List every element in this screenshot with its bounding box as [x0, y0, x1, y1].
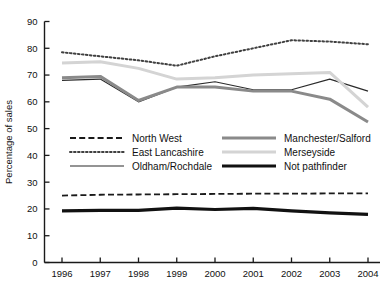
chart-canvas: 0102030405060708090 19961997199819992000…	[0, 0, 383, 286]
y-axis-tick-label: 40	[27, 150, 38, 161]
x-axis-tick-label: 2003	[319, 268, 340, 279]
y-axis-tick-label: 70	[27, 69, 38, 80]
y-axis-tick-label: 10	[27, 230, 38, 241]
y-axis-title: Percentage of sales	[3, 100, 14, 184]
y-axis-tick-label: 30	[27, 177, 38, 188]
x-axis-tick-label: 1997	[90, 268, 111, 279]
x-axis-tick-label: 1996	[51, 268, 72, 279]
legend-label-north-west: North West	[132, 133, 182, 144]
x-axis-tick-label: 1999	[166, 268, 187, 279]
y-axis-tick-label: 0	[32, 257, 37, 268]
y-axis-tick-label: 90	[27, 16, 38, 27]
y-axis-tick-label: 20	[27, 203, 38, 214]
x-axis-tick-label: 1998	[128, 268, 149, 279]
legend-label-merseyside: Merseyside	[284, 147, 336, 158]
legend-label-oldham-rochdale: Oldham/Rochdale	[132, 161, 212, 172]
y-axis-title-text: Percentage of sales	[3, 100, 14, 184]
y-axis-tick-label: 80	[27, 43, 38, 54]
legend-label-not-pathfinder: Not pathfinder	[284, 161, 347, 172]
y-axis-tick-label: 60	[27, 96, 38, 107]
legend-label-east-lancashire: East Lancashire	[132, 147, 204, 158]
x-axis-tick-label: 2001	[243, 268, 264, 279]
x-axis-tick-label: 2004	[357, 268, 378, 279]
line-chart: 0102030405060708090 19961997199819992000…	[0, 0, 383, 286]
x-axis-tick-label: 2000	[204, 268, 225, 279]
y-axis-tick-label: 50	[27, 123, 38, 134]
legend-label-manchester-salford: Manchester/Salford	[284, 133, 371, 144]
x-axis-tick-label: 2002	[281, 268, 302, 279]
